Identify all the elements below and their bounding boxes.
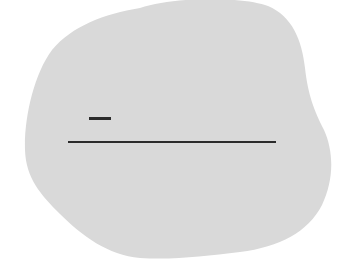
horizontal-rule-line <box>68 141 276 143</box>
short-dash-mark <box>89 117 111 120</box>
gray-blob-shape <box>0 0 350 263</box>
canvas <box>0 0 350 263</box>
